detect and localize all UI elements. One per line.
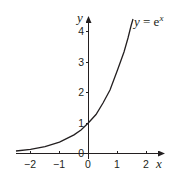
chart-root: −2 −1 0 1 2 0 1 2 3 4 x y y = ex (0, 0, 176, 179)
y-tick-label: 4 (78, 25, 84, 37)
curve-label: y = ex (132, 13, 163, 29)
exp-curve (16, 19, 133, 151)
y-tick-label: 0 (78, 147, 84, 159)
x-tick-label: 0 (85, 158, 91, 170)
y-tick-label: 2 (78, 86, 84, 98)
x-tick-label: −2 (24, 158, 36, 170)
x-tick-label: −1 (53, 158, 65, 170)
x-tick-label: 1 (114, 158, 120, 170)
y-axis-label: y (75, 10, 83, 25)
chart-svg: −2 −1 0 1 2 0 1 2 3 4 x y y = ex (0, 0, 176, 179)
x-axis-label: x (155, 156, 162, 171)
x-tick-label: 2 (143, 158, 149, 170)
y-tick-label: 3 (78, 56, 84, 68)
